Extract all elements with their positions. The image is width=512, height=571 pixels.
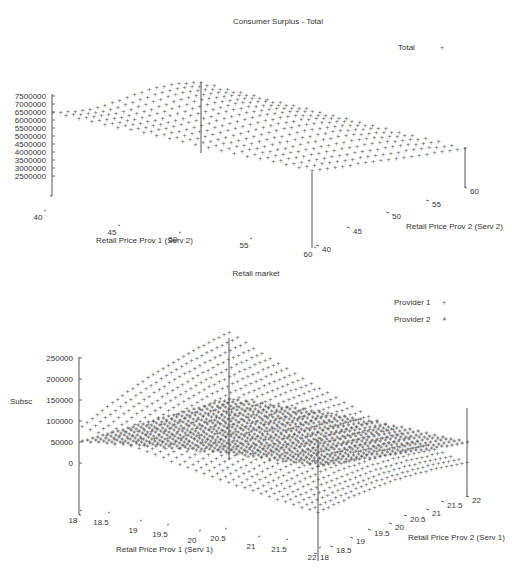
chart2-x-axis: 1818.51919.52020.52121.522 Retail Price …	[69, 510, 321, 562]
svg-text:+: +	[408, 472, 412, 480]
svg-text:+: +	[403, 473, 407, 481]
svg-text:+: +	[383, 480, 387, 488]
x-tick-label: 21.5	[271, 545, 287, 554]
chart2-z-axis: 250000200000150000100000500000	[46, 354, 82, 515]
svg-text:+: +	[279, 157, 283, 165]
x-tick-label: 22	[308, 553, 317, 562]
z-tick-label: 150000	[46, 396, 73, 405]
plus-marker-icon: +	[440, 44, 444, 52]
svg-text:+: +	[409, 153, 413, 161]
svg-text:+: +	[219, 147, 223, 155]
figure-canvas: Consumer Surplus - Total Total + 7500000…	[0, 0, 512, 571]
svg-text:+: +	[325, 165, 329, 173]
svg-text:+: +	[259, 490, 263, 498]
svg-text:+: +	[337, 499, 341, 507]
chart2-legend-label-provider1: Provider 1	[394, 298, 431, 307]
z-tick-label: 250000	[46, 354, 73, 363]
svg-text:+: +	[266, 154, 270, 162]
svg-text:+: +	[362, 488, 366, 496]
svg-text:+: +	[371, 158, 375, 166]
svg-text:+: +	[429, 466, 433, 474]
svg-text:+: +	[194, 467, 198, 475]
svg-text:+: +	[378, 482, 382, 490]
svg-text:+: +	[465, 459, 469, 467]
svg-text:+: +	[292, 160, 296, 168]
chart-retail-market: Retail market Provider 1 + Provider 2 * …	[10, 269, 505, 562]
svg-text:+: +	[308, 506, 312, 514]
svg-text:+: +	[210, 473, 214, 481]
svg-text:+: +	[419, 469, 423, 477]
svg-text:+: +	[275, 496, 279, 504]
svg-text:+: +	[77, 115, 81, 123]
svg-text:+: +	[58, 109, 62, 117]
svg-text:+: +	[227, 145, 231, 153]
svg-text:+: +	[310, 167, 314, 175]
svg-text:+: +	[321, 506, 325, 514]
svg-text:+: +	[51, 109, 55, 117]
svg-text:+: +	[440, 148, 444, 156]
z-tick-label: 100000	[46, 417, 73, 426]
z-tick-label: 200000	[46, 375, 73, 384]
svg-text:+: +	[271, 158, 275, 166]
chart1-x-axis: 4045505560 Retail Price Prov 1 (Serv 2)	[34, 210, 316, 259]
chart1-surface: ++++++++++++++++++++++++++++++++++++++++…	[51, 79, 467, 175]
chart2-surface: ++++++++++++++++++++++++++++++++++++++++…	[80, 329, 470, 517]
y-tick-label: 18.5	[336, 546, 352, 555]
y-tick-label: 21.5	[447, 501, 463, 510]
x-tick-label: 21	[247, 542, 256, 551]
svg-text:+: +	[175, 134, 179, 142]
svg-text:+: +	[367, 486, 371, 494]
x-tick-label: 19.5	[152, 530, 168, 539]
svg-text:+: +	[394, 155, 398, 163]
svg-text:+: +	[178, 461, 182, 469]
svg-text:+: +	[373, 484, 377, 492]
svg-text:+: +	[283, 498, 287, 506]
svg-text:+: +	[162, 131, 166, 139]
y-tick-label: 20.5	[410, 515, 426, 524]
svg-text:+: +	[251, 487, 255, 495]
svg-text:+: +	[357, 490, 361, 498]
x-tick-label: 40	[34, 213, 43, 222]
chart1-z-axis: 7500000700000065000006000000550000050000…	[15, 92, 55, 196]
y-tick-label: 45	[353, 227, 362, 236]
svg-text:+: +	[444, 463, 448, 471]
chart2-legend-label-provider2: Provider 2	[394, 315, 431, 324]
chart2-legend: Provider 1 + Provider 2 *	[394, 298, 447, 326]
chart1-y-label: Retail Price Prov 2 (Serv 2)	[406, 222, 503, 231]
z-tick-label: 2500000	[15, 172, 47, 181]
x-tick-label: 18.5	[93, 518, 109, 527]
y-tick-label: 22	[472, 496, 481, 505]
y-tick-label: 40	[322, 245, 331, 254]
svg-text:+: +	[201, 139, 205, 147]
svg-text:+: +	[305, 163, 309, 171]
svg-text:+: +	[258, 155, 262, 163]
chart-consumer-surplus: Consumer Surplus - Total Total + 7500000…	[15, 17, 503, 259]
svg-text:+: +	[341, 163, 345, 171]
z-tick-label: 50000	[51, 438, 74, 447]
svg-text:+: +	[110, 120, 114, 128]
chart1-y-axis: 4045505560 Retail Price Prov 2 (Serv 2)	[316, 187, 503, 254]
chart1-legend-label: Total	[398, 43, 415, 52]
svg-text:+: +	[267, 493, 271, 501]
svg-text:+: +	[193, 141, 197, 149]
svg-text:+: +	[348, 162, 352, 170]
svg-text:+: +	[388, 478, 392, 486]
svg-text:+: +	[316, 509, 320, 517]
svg-text:+: +	[129, 126, 133, 134]
svg-text:+: +	[206, 144, 210, 152]
svg-text:*: *	[465, 440, 470, 449]
svg-text:+: +	[149, 128, 153, 136]
svg-text:+: +	[181, 138, 185, 146]
svg-text:+: +	[218, 476, 222, 484]
svg-text:+: +	[155, 132, 159, 140]
chart1-legend: Total +	[398, 43, 444, 52]
z-tick-label: 0	[69, 459, 74, 468]
svg-text:+: +	[186, 464, 190, 472]
svg-text:+: +	[331, 501, 335, 509]
svg-text:+: +	[80, 423, 84, 431]
svg-text:+: +	[432, 149, 436, 157]
y-tick-label: 50	[392, 212, 401, 221]
chart2-y-axis: 1818.51919.52020.52121.522 Retail Price …	[314, 496, 505, 562]
svg-text:+: +	[168, 135, 172, 143]
y-tick-label: 55	[432, 200, 441, 209]
